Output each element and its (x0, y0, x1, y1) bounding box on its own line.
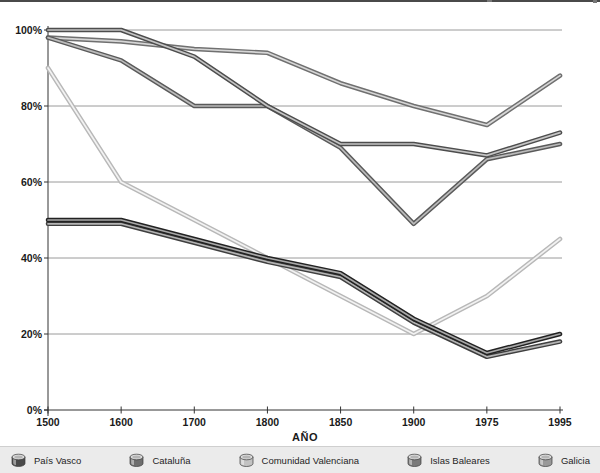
cylinder-icon (10, 453, 27, 468)
series-line (48, 224, 560, 357)
x-axis-label: 1500 (36, 416, 60, 428)
x-axis-label: 1800 (256, 416, 280, 428)
cylinder-icon (238, 453, 255, 468)
series-line (48, 38, 560, 125)
legend-item-label: Islas Baleares (430, 455, 490, 466)
legend-item: Islas Baleares (406, 453, 490, 468)
line-chart: 100%80%60%40%20%0%1500160017001800185019… (0, 0, 600, 446)
x-axis-label: 1900 (402, 416, 426, 428)
y-axis-label: 0% (27, 404, 43, 416)
series-line-highlight (48, 224, 560, 357)
x-axis-label: 1975 (475, 416, 499, 428)
cylinder-icon (128, 453, 145, 468)
y-axis-label: 100% (15, 24, 43, 36)
x-axis-label: 1995 (548, 416, 572, 428)
series-line-highlight (48, 220, 560, 353)
legend-item: Cataluña (128, 453, 190, 468)
x-axis-label: 1700 (183, 416, 207, 428)
y-axis-label: 20% (21, 328, 43, 340)
legend: País Vasco Cataluña Comunidad Valenciana (0, 446, 600, 473)
series-line (48, 220, 560, 353)
x-axis-label: 1600 (109, 416, 133, 428)
cylinder-icon (537, 453, 554, 468)
legend-item: País Vasco (10, 453, 81, 468)
x-axis-title: AÑO (292, 431, 318, 443)
legend-item: Comunidad Valenciana (238, 453, 360, 468)
series-line-highlight (48, 38, 560, 125)
legend-item-label: Comunidad Valenciana (262, 455, 360, 466)
series-line (48, 68, 560, 334)
y-axis-label: 40% (21, 252, 43, 264)
chart-screenshot: 100%80%60%40%20%0%1500160017001800185019… (0, 0, 600, 473)
legend-item-label: Cataluña (152, 455, 190, 466)
series-line-highlight (48, 68, 560, 334)
x-axis-label: 1850 (329, 416, 353, 428)
series-line (48, 30, 560, 155)
y-axis-label: 80% (21, 100, 43, 112)
legend-item-label: Galicia (561, 455, 590, 466)
y-axis-label: 60% (21, 176, 43, 188)
legend-item: Galicia (537, 453, 590, 468)
legend-item-label: País Vasco (34, 455, 81, 466)
cylinder-icon (406, 453, 423, 468)
series-line-highlight (48, 30, 560, 155)
